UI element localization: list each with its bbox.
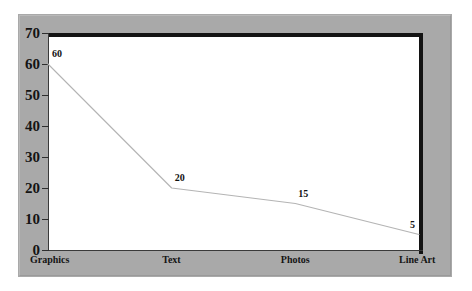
y-axis-tick bbox=[42, 188, 49, 189]
x-axis-line bbox=[48, 250, 423, 251]
y-axis-tick bbox=[42, 64, 49, 65]
x-axis-category-label: Graphics bbox=[30, 255, 69, 265]
y-axis-tick bbox=[42, 219, 49, 220]
data-point-label: 15 bbox=[298, 189, 308, 199]
y-axis-tick-label: 70 bbox=[14, 26, 40, 41]
plot-top-border bbox=[48, 33, 423, 37]
x-axis-category-label: Photos bbox=[281, 255, 310, 265]
y-axis-tick bbox=[42, 33, 49, 34]
y-axis-tick-label: 10 bbox=[14, 212, 40, 227]
y-axis-tick-label: 20 bbox=[14, 181, 40, 196]
data-point-label: 5 bbox=[410, 220, 415, 230]
x-axis-category-label: Text bbox=[162, 255, 181, 265]
data-point-label: 60 bbox=[52, 49, 62, 59]
x-axis-category-label: Line Art bbox=[399, 255, 435, 265]
y-axis-tick bbox=[42, 157, 49, 158]
plot-right-border bbox=[419, 33, 423, 254]
plot-area bbox=[48, 33, 419, 250]
data-point-label: 20 bbox=[175, 173, 185, 183]
y-axis-tick bbox=[42, 250, 49, 251]
y-axis-tick-label: 50 bbox=[14, 88, 40, 103]
y-axis-tick-label: 30 bbox=[14, 150, 40, 165]
y-axis-tick bbox=[42, 95, 49, 96]
chart-frame: 706050403020100 GraphicsTextPhotosLine A… bbox=[18, 14, 452, 277]
y-axis-tick-label: 60 bbox=[14, 57, 40, 72]
y-axis-tick bbox=[42, 126, 49, 127]
y-axis-tick-label: 40 bbox=[14, 119, 40, 134]
